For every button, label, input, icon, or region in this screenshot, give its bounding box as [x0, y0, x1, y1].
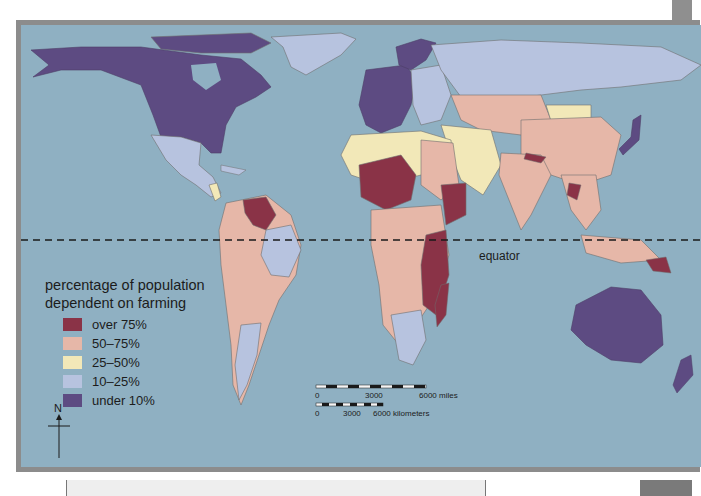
legend-swatch — [63, 375, 82, 388]
north-arrow — [48, 414, 70, 458]
legend-label: over 75% — [92, 317, 147, 332]
region-png — [646, 257, 671, 273]
region-india — [499, 153, 551, 230]
region-southern-africa — [391, 310, 426, 365]
region-indonesia — [581, 235, 661, 263]
region-north-america — [31, 47, 271, 153]
legend-item: 50–75% — [63, 334, 140, 352]
region-europe-west — [359, 65, 416, 133]
scale-km-end: 6000 kilometers — [373, 409, 429, 418]
legend-swatch — [63, 356, 82, 369]
region-japan — [619, 115, 641, 155]
legend-label: 50–75% — [92, 336, 140, 351]
scale-bar-km — [316, 403, 383, 406]
legend-item: 25–50% — [63, 353, 140, 371]
scale-miles-end: 6000 miles — [419, 391, 458, 400]
legend-title-line1: percentage of population — [45, 276, 205, 294]
region-sahel — [359, 155, 416, 210]
legend-item: under 10% — [63, 391, 155, 409]
scale-km-start: 0 — [315, 409, 319, 418]
region-arctic-islands — [151, 33, 271, 53]
region-australia — [571, 287, 663, 363]
scale-bar-miles — [316, 385, 426, 388]
scale-miles-start: 0 — [315, 391, 319, 400]
legend-swatch — [63, 394, 82, 407]
legend-title-line2: dependent on farming — [45, 294, 205, 312]
legend-swatch — [63, 337, 82, 350]
legend-item: over 75% — [63, 315, 147, 333]
world-map: percentage of population dependent on fa… — [21, 25, 701, 467]
compass-north-label: N — [54, 402, 62, 414]
region-new-zealand — [673, 355, 693, 393]
legend-swatch — [63, 318, 82, 331]
legend-title: percentage of population dependent on fa… — [45, 276, 205, 312]
scale-km-mid: 3000 — [343, 409, 361, 418]
region-cuba — [221, 165, 246, 175]
scale-miles-mid: 3000 — [365, 391, 383, 400]
region-ethiopia — [441, 183, 466, 225]
legend-item: 10–25% — [63, 372, 140, 390]
legend-label: under 10% — [92, 393, 155, 408]
page-edge — [672, 0, 692, 22]
legend-label: 10–25% — [92, 374, 140, 389]
page-edge-bottom-right — [640, 480, 692, 496]
equator-label: equator — [479, 249, 520, 263]
region-scandinavia — [396, 39, 436, 70]
region-greenland — [271, 33, 356, 75]
region-russia — [431, 40, 701, 100]
legend-label: 25–50% — [92, 355, 140, 370]
page-panel-below — [66, 480, 486, 496]
region-se-asia — [561, 175, 601, 230]
